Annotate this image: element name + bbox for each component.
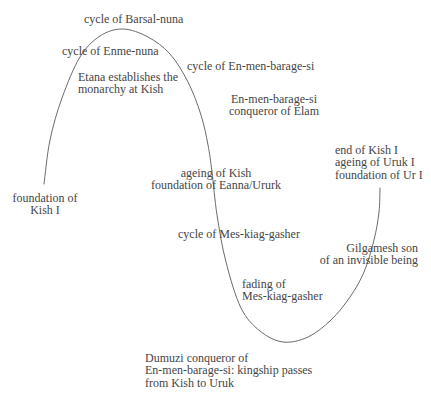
label-line: cycle of Barsal-nuna [84, 13, 183, 25]
label-line: cycle of Mes-kiag-gasher [178, 228, 300, 240]
label-dumuzi-kingship-passes: Dumuzi conqueror of En-men-barage-si: ki… [145, 352, 312, 389]
label-cycle-of-enme-nuna: cycle of Enme-nuna [62, 45, 159, 57]
label-gilgamesh-invisible-being: Gilgamesh son of an invisible being [320, 242, 418, 267]
label-line: Kish I [13, 204, 78, 216]
label-fading-of-mes-kiag-gasher: fading of Mes-kiag-gasher [242, 278, 323, 303]
label-en-men-barage-si-conqueror-of-elam: En-men-barage-si conqueror of Elam [229, 93, 319, 118]
diagram-canvas: cycle of Barsal-nuna cycle of Enme-nuna … [0, 0, 431, 394]
label-line: Mes-kiag-gasher [242, 290, 323, 302]
label-ageing-of-kish: ageing of Kish foundation of Eanna/Ururk [151, 167, 281, 192]
label-line: cycle of En-men-barage-si [187, 60, 314, 72]
label-cycle-of-en-men-barage-si: cycle of En-men-barage-si [187, 60, 314, 72]
label-line: En-men-barage-si: kingship passes [145, 364, 312, 376]
label-line: ageing of Uruk I [335, 156, 423, 168]
label-foundation-of-kish-i: foundation of Kish I [13, 192, 78, 217]
label-line: foundation of Ur I [335, 169, 423, 181]
label-line: foundation of Eanna/Ururk [151, 179, 281, 191]
label-etana-monarchy: Etana establishes the monarchy at Kish [78, 71, 178, 96]
label-line: of an invisible being [320, 254, 418, 266]
label-cycle-of-barsal-nuna: cycle of Barsal-nuna [84, 13, 183, 25]
label-cycle-of-mes-kiag-gasher: cycle of Mes-kiag-gasher [178, 228, 300, 240]
label-line: cycle of Enme-nuna [62, 45, 159, 57]
label-end-of-kish-i: end of Kish I ageing of Uruk I foundatio… [335, 144, 423, 181]
label-line: from Kish to Uruk [145, 377, 312, 389]
label-line: monarchy at Kish [78, 83, 178, 95]
label-line: conqueror of Elam [229, 105, 319, 117]
